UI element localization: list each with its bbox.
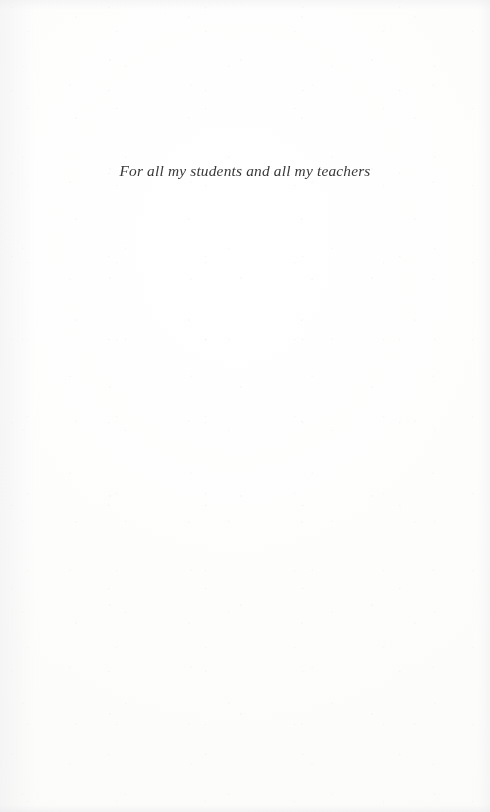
page-edge-right	[478, 0, 490, 812]
page-edge-bottom	[0, 805, 490, 812]
dedication-block: For all my students and all my teachers	[0, 160, 490, 181]
dedication-text: For all my students and all my teachers	[119, 160, 370, 181]
paper-tone-overlay	[0, 0, 490, 812]
binding-gutter-shadow	[0, 0, 34, 812]
page-edge-top	[0, 0, 490, 10]
paper-grain-texture	[0, 0, 490, 812]
scan-corner-artifact	[412, 726, 490, 812]
book-page: For all my students and all my teachers	[0, 0, 490, 812]
